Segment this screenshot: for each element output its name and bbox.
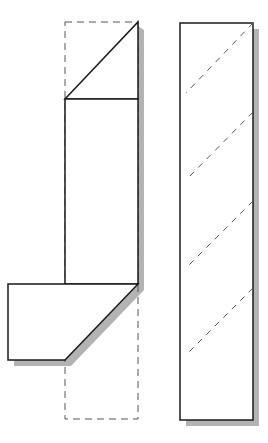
middle-rect (65, 99, 138, 284)
top-triangle (65, 22, 138, 99)
folding-diagram (0, 0, 268, 443)
left-piece (8, 22, 144, 419)
right-rect (180, 23, 253, 420)
right-piece (180, 23, 259, 426)
bottom-flap (8, 284, 138, 360)
